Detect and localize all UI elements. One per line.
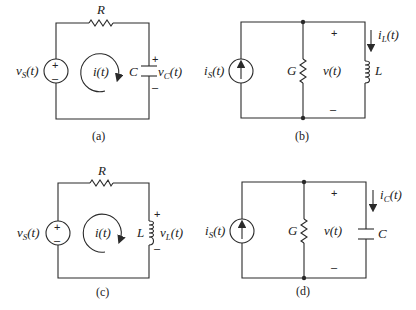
source-label: iS(t)	[204, 63, 224, 80]
source-plus: +	[54, 221, 60, 233]
wire	[56, 76, 149, 119]
capacitor-voltage-label: vC(t)	[158, 64, 182, 81]
caption-b: (b)	[295, 129, 309, 143]
capacitor-icon	[358, 229, 374, 239]
capacitor-icon	[141, 66, 157, 76]
inductor-icon	[365, 61, 370, 83]
voltage-plus: +	[331, 187, 337, 199]
voltage-plus: +	[331, 27, 337, 39]
caption-d: (d)	[296, 284, 310, 298]
caption-c: (c)	[96, 285, 109, 299]
wire	[58, 245, 149, 278]
voltage-label: v(t)	[324, 223, 342, 238]
wire	[113, 183, 149, 221]
node-dot	[302, 180, 306, 184]
inductor-minus: –	[154, 242, 161, 254]
capacitor-current-label: iC(t)	[380, 187, 402, 204]
source-label: vS(t)	[17, 225, 40, 242]
wire	[58, 183, 90, 221]
inductor-voltage-label: vL(t)	[160, 225, 183, 242]
capacitor-minus: –	[152, 81, 159, 93]
inductor-label: L	[374, 63, 382, 78]
node-dot	[302, 276, 306, 280]
resistor-icon	[89, 20, 113, 26]
conductance-resistor-icon	[301, 219, 307, 243]
source-minus: –	[54, 234, 61, 246]
inductor-current-label: iL(t)	[378, 27, 399, 44]
conductance-label: G	[287, 63, 297, 78]
voltage-minus: –	[330, 103, 337, 115]
source-label: vS(t)	[16, 63, 39, 80]
resistor-icon	[90, 180, 113, 186]
source-label: iS(t)	[205, 223, 225, 240]
voltage-label: v(t)	[323, 63, 341, 78]
conductance-resistor-icon	[300, 59, 306, 83]
resistor-label: R	[96, 2, 105, 17]
caption-a: (a)	[92, 129, 105, 143]
wire	[56, 23, 89, 59]
resistor-label: R	[97, 163, 106, 178]
panel-d-parallel-gc: iS(t) G + v(t) – C iC(t) (d)	[205, 180, 402, 298]
node-dot	[301, 116, 305, 120]
loop-current-label: i(t)	[93, 64, 109, 79]
panel-c-series-rl: R + – vS(t) i(t) L + – vL(t) (c)	[17, 163, 183, 299]
circuit-figure: R + – vS(t) i(t) C + – vC(t) (a)	[0, 0, 416, 310]
wire	[113, 23, 149, 66]
voltage-minus: –	[331, 261, 338, 273]
source-minus: –	[52, 72, 59, 84]
node-dot	[301, 20, 305, 24]
panel-b-parallel-gl: iS(t) G + v(t) – L iL(t) (b)	[204, 20, 399, 143]
conductance-label: G	[288, 223, 298, 238]
capacitor-label: C	[129, 64, 138, 79]
loop-current-label: i(t)	[95, 225, 111, 240]
panel-a-series-rc: R + – vS(t) i(t) C + – vC(t) (a)	[16, 2, 182, 143]
inductor-plus: +	[154, 208, 160, 220]
capacitor-label: C	[378, 226, 387, 241]
inductor-label: L	[136, 225, 144, 240]
inductor-icon	[149, 221, 154, 245]
source-plus: +	[52, 59, 58, 71]
